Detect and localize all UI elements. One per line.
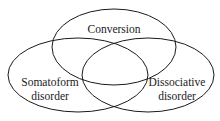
dissociative-label-line2: disorder <box>158 90 196 102</box>
somatoform-label-line2: disorder <box>31 90 69 102</box>
venn-diagram: Conversion Somatoform disorder Dissociat… <box>0 0 220 121</box>
conversion-label: Conversion <box>87 23 140 35</box>
somatoform-ellipse <box>8 38 148 112</box>
dissociative-label-line1: Dissociative <box>149 76 206 88</box>
somatoform-label-line1: Somatoform <box>21 76 79 88</box>
conversion-ellipse <box>52 9 176 85</box>
